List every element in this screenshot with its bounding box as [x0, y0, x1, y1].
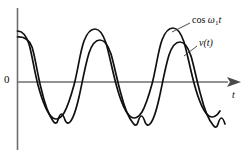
carrier-label-variable: t [218, 14, 221, 25]
curve-carrier-cos [18, 28, 221, 119]
carrier-label-prefix: cos [192, 14, 208, 25]
x-axis-arrow-icon [227, 77, 241, 87]
origin-label: 0 [4, 74, 10, 85]
carrier-curve-label: cos ω1t [192, 15, 221, 27]
t-axis-label: t [232, 90, 235, 100]
carrier-label-omega: ω [208, 14, 215, 25]
waveform-figure: 0 t cos ω1t v(t) [0, 0, 251, 160]
signal-curve-label: v(t) [199, 38, 213, 48]
